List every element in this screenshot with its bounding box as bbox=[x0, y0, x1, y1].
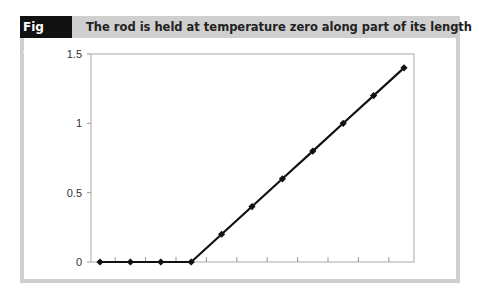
line-chart: 00.511.5 bbox=[0, 0, 479, 299]
data-point-marker bbox=[157, 258, 164, 265]
data-point-marker bbox=[127, 258, 134, 265]
data-line bbox=[100, 68, 404, 262]
y-tick-label: 1 bbox=[76, 117, 82, 129]
y-axis-ticks: 00.511.5 bbox=[67, 48, 91, 268]
data-point-marker bbox=[96, 258, 103, 265]
y-tick-label: 0.5 bbox=[67, 187, 82, 199]
plot-area bbox=[91, 54, 414, 262]
data-markers bbox=[96, 64, 407, 265]
y-tick-label: 0 bbox=[76, 256, 82, 268]
chart-axes bbox=[91, 54, 414, 262]
y-tick-label: 1.5 bbox=[67, 48, 82, 60]
